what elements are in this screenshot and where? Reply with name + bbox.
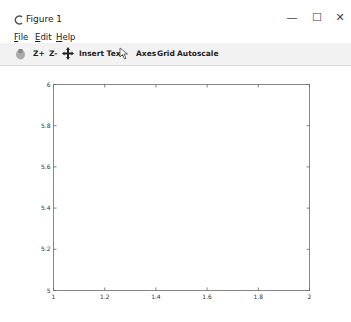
y-axis: 55.25.45.65.86 — [41, 81, 310, 294]
y-tick-label: 5.8 — [41, 122, 51, 129]
x-tick-label: 1.8 — [254, 293, 264, 300]
plot-canvas[interactable]: 11.21.41.61.82 55.25.45.65.86 — [0, 0, 351, 322]
y-tick-label: 6 — [47, 81, 51, 88]
y-tick-label: 5.6 — [41, 163, 51, 170]
x-tick-label: 1.6 — [202, 293, 212, 300]
y-tick-label: 5.4 — [41, 204, 51, 211]
y-tick-label: 5 — [47, 287, 51, 294]
x-tick-label: 1.2 — [100, 293, 110, 300]
axes-frame — [54, 85, 310, 291]
x-tick-label: 1.4 — [151, 293, 161, 300]
x-tick-label: 1 — [52, 293, 56, 300]
x-tick-label: 2 — [308, 293, 312, 300]
x-axis: 11.21.41.61.82 — [52, 85, 312, 300]
y-tick-label: 5.2 — [41, 245, 51, 252]
